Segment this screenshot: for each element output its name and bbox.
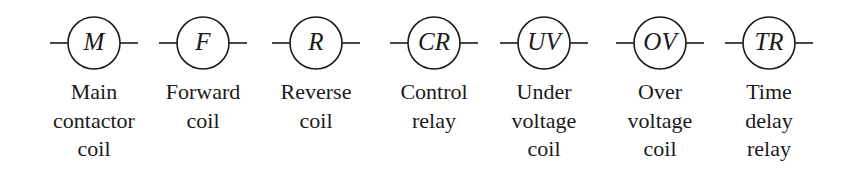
coil-description-line: voltage — [600, 107, 720, 136]
coil-description-line: Forward — [143, 78, 263, 107]
coil-abbreviation: UV — [484, 26, 604, 58]
coil-description: Overvoltagecoil — [600, 78, 720, 164]
coil-description-line: Under — [484, 78, 604, 107]
coil-symbol-tr: TR Timedelayrelay — [709, 0, 829, 183]
coil-abbreviation: CR — [374, 26, 494, 58]
coil-symbol-cr: CR Controlrelay — [374, 0, 494, 183]
coil-description-line: relay — [374, 107, 494, 136]
coil-description-line: voltage — [484, 107, 604, 136]
coil-description-line: Over — [600, 78, 720, 107]
coil-description: Undervoltagecoil — [484, 78, 604, 164]
coil-description: Controlrelay — [374, 78, 494, 135]
coil-symbol-f: F Forwardcoil — [143, 0, 263, 183]
coil-description: Timedelayrelay — [709, 78, 829, 164]
coil-description-line: delay — [709, 107, 829, 136]
coil-abbreviation: M — [34, 26, 154, 58]
coil-description: Maincontactorcoil — [34, 78, 154, 164]
coil-description-line: coil — [600, 135, 720, 164]
coil-description-line: Main — [34, 78, 154, 107]
coil-description-line: contactor — [34, 107, 154, 136]
coil-symbol-m: M Maincontactorcoil — [34, 0, 154, 183]
coil-description-line: Time — [709, 78, 829, 107]
coil-description: Forwardcoil — [143, 78, 263, 135]
coil-abbreviation: OV — [600, 26, 720, 58]
coil-description-line: coil — [484, 135, 604, 164]
coil-description-line: coil — [143, 107, 263, 136]
coil-description-line: coil — [34, 135, 154, 164]
coil-abbreviation: F — [143, 26, 263, 58]
coil-abbreviation: R — [256, 26, 376, 58]
coil-symbol-r: R Reversecoil — [256, 0, 376, 183]
coil-description-line: Control — [374, 78, 494, 107]
coil-description-line: coil — [256, 107, 376, 136]
coil-description-line: Reverse — [256, 78, 376, 107]
coil-description-line: relay — [709, 135, 829, 164]
coil-symbol-uv: UV Undervoltagecoil — [484, 0, 604, 183]
coil-symbol-ov: OV Overvoltagecoil — [600, 0, 720, 183]
coil-abbreviation: TR — [709, 26, 829, 58]
coil-description: Reversecoil — [256, 78, 376, 135]
